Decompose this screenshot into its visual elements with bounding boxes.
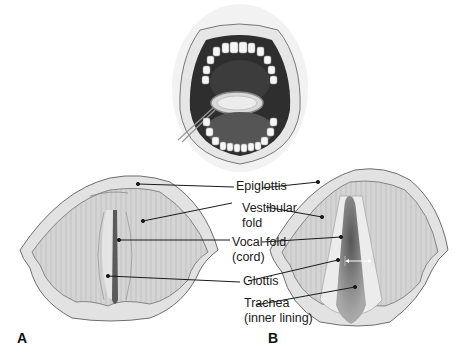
label-vestibular-fold-line2: fold	[242, 216, 262, 231]
label-trachea-line1: Trachea	[244, 296, 289, 311]
panel-label-b: B	[268, 330, 278, 346]
label-vocal-fold-line1: Vocal fold	[232, 235, 286, 250]
label-vestibular-fold-line1: Vestibular	[242, 201, 297, 216]
label-glottis: Glottis	[243, 274, 278, 289]
larynx-panel-a	[20, 176, 218, 321]
label-trachea-line2: (inner lining)	[244, 311, 313, 326]
panel-label-a: A	[17, 330, 27, 346]
larynx-panel-b	[270, 169, 448, 326]
label-vocal-fold-line2: (cord)	[232, 250, 265, 265]
glottis-closed	[112, 210, 118, 304]
label-epiglottis: Epiglottis	[236, 179, 287, 194]
larynx-diagram	[0, 0, 466, 355]
open-mouth-illustration	[172, 4, 308, 172]
